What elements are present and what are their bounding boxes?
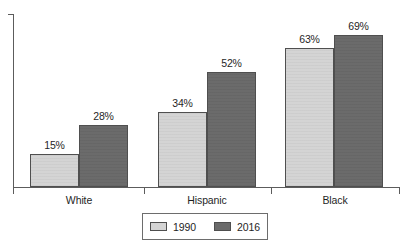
bar-value-black-1990: 63%	[285, 33, 334, 45]
bar-value-white-1990: 15%	[30, 139, 79, 151]
legend-swatch-icon-2016	[214, 222, 231, 231]
chart-legend: 1990 2016	[142, 213, 268, 240]
x-axis-label-black: Black	[310, 194, 360, 206]
bar-value-hispanic-1990: 34%	[158, 97, 207, 109]
x-axis-label-hispanic: Hispanic	[182, 194, 232, 206]
bar-value-white-2016: 28%	[79, 110, 128, 122]
bar-chart: 15% 28% 34% 52% 63% 69% White Hispanic B…	[0, 0, 412, 250]
legend-label-2016: 2016	[237, 221, 260, 233]
bar-value-black-2016: 69%	[334, 20, 383, 32]
legend-entry-1990: 1990	[150, 221, 196, 233]
bar-hispanic-2016	[207, 72, 256, 187]
bar-white-2016	[79, 125, 128, 187]
bar-hispanic-1990	[158, 112, 207, 187]
bar-white-1990	[30, 154, 79, 187]
bar-black-2016	[334, 35, 383, 187]
legend-swatch-icon-1990	[150, 222, 167, 231]
bar-value-hispanic-2016: 52%	[207, 57, 256, 69]
bar-black-1990	[285, 48, 334, 187]
legend-label-1990: 1990	[173, 221, 196, 233]
legend-entry-2016: 2016	[214, 221, 260, 233]
x-axis-label-white: White	[54, 194, 104, 206]
